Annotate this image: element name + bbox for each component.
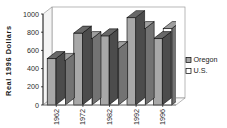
bar-oregon-1982: [100, 29, 118, 105]
bar-front-face: [100, 36, 109, 105]
legend-label: U.S.: [194, 66, 208, 75]
bar-oregon-1992: [127, 11, 145, 105]
x-tick-label: 1972: [78, 109, 87, 125]
x-tick-label: 1982: [105, 109, 114, 125]
y-tick-label: 200: [27, 82, 39, 91]
bar-front-face: [47, 59, 56, 105]
bar-side-face: [56, 52, 65, 105]
y-tick-label: 800: [27, 28, 39, 37]
legend-label: Oregon: [194, 55, 218, 64]
y-axis-title-text: Real 1996 Dollars: [4, 25, 13, 96]
bar-side-face: [92, 32, 101, 105]
legend-swatch: [186, 57, 191, 62]
bar-oregon-1962: [47, 52, 65, 105]
x-tick-label: 1996: [158, 109, 167, 125]
bar-chart: 02004006008001000 19621972198219921996 R…: [0, 0, 227, 128]
bar-side-face: [65, 53, 74, 105]
y-tick-label: 600: [27, 46, 39, 55]
bar-oregon-1996: [154, 32, 172, 105]
bar-side-face: [119, 42, 128, 105]
y-tick-label: 0: [35, 101, 39, 110]
bar-front-face: [154, 39, 163, 105]
y-tick-label: 1000: [23, 10, 39, 19]
bar-side-face: [145, 22, 154, 105]
bar-side-face: [136, 11, 145, 105]
bar-side-face: [82, 26, 91, 105]
x-tick-label: 1992: [132, 109, 141, 125]
bar-side-face: [162, 32, 171, 105]
y-tick-label: 400: [27, 64, 39, 73]
bar-front-face: [74, 33, 83, 105]
bar-side-face: [109, 29, 118, 105]
chart-canvas: 02004006008001000 19621972198219921996 R…: [0, 0, 227, 128]
bar-front-face: [127, 18, 136, 105]
x-tick-label: 1962: [52, 109, 61, 125]
y-axis-title: Real 1996 Dollars: [4, 25, 13, 96]
bar-oregon-1972: [74, 26, 92, 105]
legend-swatch: [186, 68, 191, 73]
